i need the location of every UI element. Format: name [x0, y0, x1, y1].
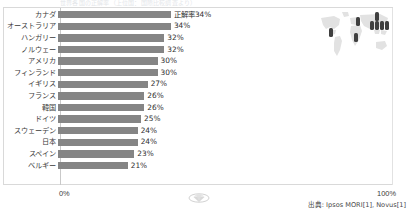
- bar-value-label: 24%: [141, 127, 157, 135]
- chart-screenshot: 世界各国の正解率（上位国：国際比較調査より） カナダ正解率34%オーストラリア3…: [0, 0, 410, 215]
- axis-tick-min: 0%: [59, 189, 70, 198]
- bar: [58, 46, 164, 53]
- bar-track: 26%: [58, 90, 410, 102]
- bar: [58, 92, 144, 99]
- bar: [58, 34, 164, 41]
- bar-value-label: 26%: [147, 104, 163, 112]
- bar: [58, 11, 171, 18]
- bar-row: イギリス27%: [0, 79, 410, 91]
- source-note: 出典: Ipsos MORI[1], Novus[1]: [308, 201, 406, 209]
- bar-value-label: 34%: [174, 22, 190, 30]
- bar: [58, 150, 134, 157]
- bar-value-label: 正解率34%: [174, 11, 211, 19]
- bar-row: 韓国26%: [0, 102, 410, 114]
- bar: [58, 81, 148, 88]
- bar-value-label: 23%: [137, 150, 153, 158]
- bar-value-label: 26%: [147, 92, 163, 100]
- bar: [58, 23, 171, 30]
- category-label: ハンガリー: [0, 34, 58, 42]
- axis-tick-max: 100%: [377, 189, 396, 198]
- bar-row: フィンランド30%: [0, 67, 410, 79]
- bar: [58, 162, 128, 169]
- category-label: スペイン: [0, 150, 58, 158]
- category-label: カナダ: [0, 11, 58, 19]
- bar-track: 25%: [58, 113, 410, 125]
- bar: [58, 57, 158, 64]
- bar: [58, 115, 141, 122]
- bar-row: スウェーデン24%: [0, 125, 410, 137]
- bar-value-label: 21%: [131, 162, 147, 170]
- bar-track: 26%: [58, 102, 410, 114]
- bar-track: 23%: [58, 148, 410, 160]
- bar-value-label: 24%: [141, 138, 157, 146]
- category-label: アメリカ: [0, 57, 58, 65]
- bar-value-label: 32%: [167, 46, 183, 54]
- bar-track: 24%: [58, 137, 410, 149]
- cut-off-title: 世界各国の正解率（上位国：国際比較調査より）: [60, 0, 360, 6]
- bar-row: 日本24%: [0, 137, 410, 149]
- bar: [58, 139, 138, 146]
- bar-value-label: 30%: [161, 69, 177, 77]
- bar-value-label: 27%: [151, 80, 167, 88]
- category-label: フランス: [0, 92, 58, 100]
- bar-value-label: 25%: [144, 115, 160, 123]
- bar-row: ベルギー21%: [0, 160, 410, 172]
- bar: [58, 127, 138, 134]
- category-label: ドイツ: [0, 115, 58, 123]
- bar-value-label: 32%: [167, 34, 183, 42]
- category-label: フィンランド: [0, 69, 58, 77]
- category-label: イギリス: [0, 80, 58, 88]
- world-map-illustration: [318, 9, 392, 63]
- category-label: ベルギー: [0, 162, 58, 170]
- bar-track: 24%: [58, 125, 410, 137]
- bar-row: スペイン23%: [0, 148, 410, 160]
- category-label: オーストラリア: [0, 22, 58, 30]
- category-label: 韓国: [0, 104, 58, 112]
- bar-row: フランス26%: [0, 90, 410, 102]
- bar-track: 30%: [58, 67, 410, 79]
- bar-track: 27%: [58, 79, 410, 91]
- category-label: 日本: [0, 138, 58, 146]
- bar-track: 21%: [58, 160, 410, 172]
- category-label: ノルウェー: [0, 46, 58, 54]
- bar-value-label: 30%: [161, 57, 177, 65]
- bar-row: ドイツ25%: [0, 113, 410, 125]
- bar: [58, 104, 144, 111]
- watermark-logo-icon: [188, 190, 210, 206]
- bar: [58, 69, 158, 76]
- category-label: スウェーデン: [0, 127, 58, 135]
